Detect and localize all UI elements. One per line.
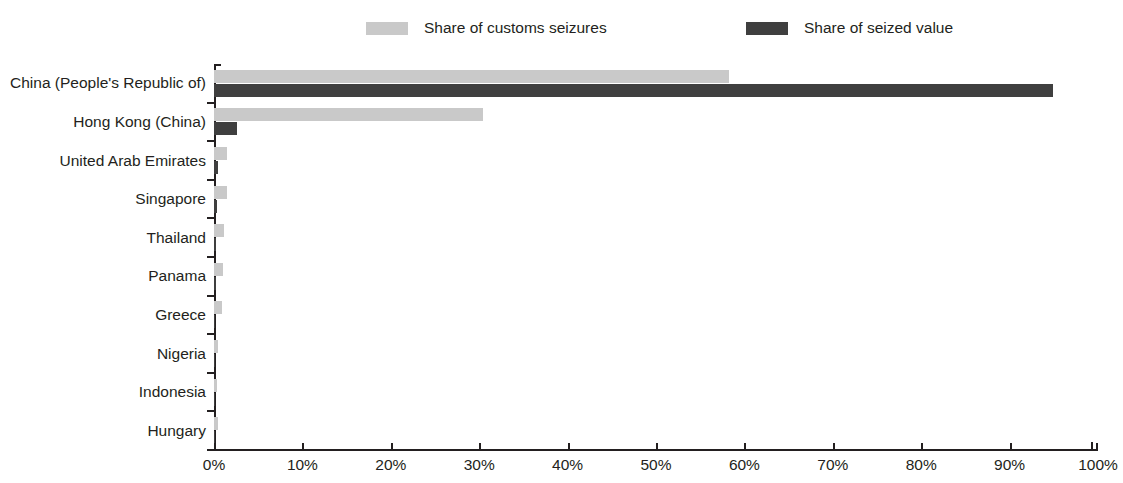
- x-axis-tick-labels: 0%10%20%30%40%50%60%70%80%90%100%: [0, 456, 1123, 480]
- bar-0-7: [214, 340, 218, 353]
- x-axis-tick-8: [921, 443, 923, 451]
- x-axis-tick-label-3: 30%: [464, 456, 495, 474]
- x-axis-tick-label-9: 90%: [994, 456, 1025, 474]
- y-axis-label-1: Hong Kong (China): [0, 113, 206, 131]
- y-axis-tick-7: [207, 372, 216, 374]
- bar-0-6: [214, 301, 222, 314]
- x-axis-tick-6: [744, 443, 746, 451]
- x-axis-tick-7: [833, 443, 835, 451]
- x-axis-tick-1: [302, 443, 304, 451]
- y-axis-top-cap: [214, 64, 221, 66]
- chart-legend: Share of customs seizuresShare of seized…: [0, 12, 1123, 44]
- x-axis-tick-3: [479, 443, 481, 451]
- y-axis-tick-1: [207, 140, 216, 142]
- y-axis-label-4: Thailand: [0, 229, 206, 247]
- legend-swatch-seized-value: [746, 22, 788, 35]
- bar-1-5: [214, 277, 216, 290]
- y-axis-label-9: Hungary: [0, 422, 206, 440]
- x-axis-tick-label-1: 10%: [287, 456, 318, 474]
- y-axis-tick-3: [207, 217, 216, 219]
- bar-1-8: [214, 393, 215, 406]
- legend-swatch-customs-seizures: [366, 22, 408, 35]
- bar-1-1: [214, 122, 237, 135]
- bar-0-5: [214, 263, 223, 276]
- y-axis-tick-2: [207, 179, 216, 181]
- x-axis-tick-label-5: 50%: [640, 456, 671, 474]
- y-axis-tick-8: [207, 410, 216, 412]
- x-axis-tick-label-2: 20%: [375, 456, 406, 474]
- bar-1-7: [214, 354, 215, 367]
- bar-0-1: [214, 108, 483, 121]
- bar-0-0: [214, 70, 729, 83]
- x-axis-tick-label-10: 100%: [1078, 456, 1118, 474]
- y-axis-tick-0: [207, 102, 216, 104]
- y-axis-label-5: Panama: [0, 267, 206, 285]
- x-axis-tick-0: [214, 443, 216, 451]
- x-axis-tick-label-7: 70%: [817, 456, 848, 474]
- x-axis-tick-4: [568, 443, 570, 451]
- bar-0-2: [214, 147, 227, 160]
- y-axis-label-0: China (People's Republic of): [0, 74, 206, 92]
- x-axis-tick-5: [656, 443, 658, 451]
- x-axis-tick-label-8: 80%: [906, 456, 937, 474]
- y-axis-label-6: Greece: [0, 306, 206, 324]
- y-axis-label-2: United Arab Emirates: [0, 152, 206, 170]
- bar-0-4: [214, 224, 224, 237]
- y-axis-label-8: Indonesia: [0, 383, 206, 401]
- plot-area: [214, 64, 1098, 450]
- y-axis-label-3: Singapore: [0, 190, 206, 208]
- bar-0-9: [214, 417, 218, 430]
- bar-1-3: [214, 200, 217, 213]
- legend-label-1: Share of seized value: [804, 19, 953, 37]
- x-axis-tick-label-4: 40%: [552, 456, 583, 474]
- bar-1-6: [214, 315, 215, 328]
- x-axis-tick-label-0: 0%: [203, 456, 225, 474]
- y-axis-tick-6: [207, 333, 216, 335]
- bar-1-4: [214, 238, 216, 251]
- x-axis-tick-9: [1010, 443, 1012, 451]
- x-axis-tick-2: [391, 443, 393, 451]
- y-axis-tick-5: [207, 295, 216, 297]
- x-axis-tick-label-6: 60%: [729, 456, 760, 474]
- x-axis-right-cap: [1091, 442, 1093, 451]
- y-axis-label-7: Nigeria: [0, 345, 206, 363]
- bar-0-3: [214, 186, 227, 199]
- y-axis-category-labels: China (People's Republic of)Hong Kong (C…: [0, 64, 206, 450]
- x-axis-tick-10: [1096, 443, 1098, 451]
- legend-entry-1: Share of seized value: [746, 17, 953, 39]
- bar-1-2: [214, 161, 218, 174]
- bar-1-0: [214, 84, 1053, 97]
- legend-entry-0: Share of customs seizures: [366, 17, 607, 39]
- y-axis-tick-4: [207, 256, 216, 258]
- bar-chart: Share of customs seizuresShare of seized…: [0, 0, 1123, 483]
- bar-0-8: [214, 379, 217, 392]
- legend-label-0: Share of customs seizures: [424, 19, 607, 37]
